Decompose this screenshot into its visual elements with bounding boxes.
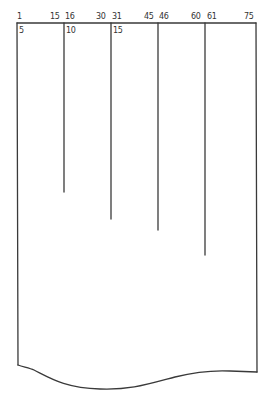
label-col-2-end: 30 <box>96 13 106 21</box>
diagram-canvas <box>0 0 269 398</box>
label-col-3-start: 31 <box>112 13 122 21</box>
label-col-3-end: 45 <box>144 13 154 21</box>
label-col-2-start: 16 <box>65 13 75 21</box>
label-col-4-end: 60 <box>191 13 201 21</box>
label-col-5-end: 75 <box>244 13 254 21</box>
label-col-1-start: 1 <box>17 13 22 21</box>
sublabel-col-1: 5 <box>19 27 24 35</box>
right-border <box>256 23 257 372</box>
torn-bottom-edge <box>18 365 257 389</box>
label-col-4-start: 46 <box>159 13 169 21</box>
label-col-1-end: 15 <box>50 13 60 21</box>
sublabel-col-2: 10 <box>66 27 76 35</box>
label-col-5-start: 61 <box>207 13 217 21</box>
left-border <box>17 23 18 365</box>
sublabel-col-3: 15 <box>113 27 123 35</box>
